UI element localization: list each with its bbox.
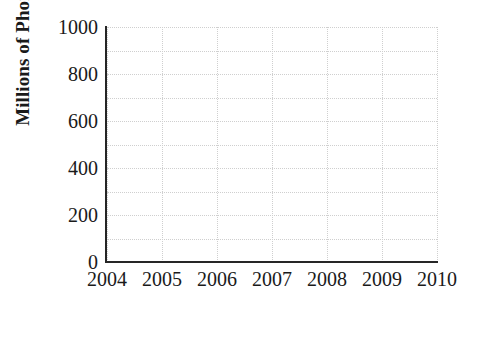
gridline-vertical: [272, 27, 273, 262]
y-axis-tick-label: 200: [7, 205, 107, 225]
x-axis-tick-labels: 2004200520062007200820092010: [107, 267, 437, 297]
y-axis-tick-label: 1000: [7, 17, 107, 37]
plot-area: [107, 27, 437, 262]
x-axis-line: [105, 261, 438, 263]
gridline-vertical: [217, 27, 218, 262]
x-axis-tick-label: 2010: [402, 267, 472, 291]
gridline-vertical: [162, 27, 163, 262]
chart-figure: Millions of Phones 02004006008001000 200…: [0, 0, 485, 343]
gridline-vertical: [382, 27, 383, 262]
y-axis-tick-label: 400: [7, 158, 107, 178]
y-axis-tick-labels: 02004006008001000: [0, 27, 107, 262]
y-axis-tick-label: 800: [7, 64, 107, 84]
y-axis-tick-label: 600: [7, 111, 107, 131]
gridline-vertical: [107, 27, 108, 262]
gridline-vertical: [327, 27, 328, 262]
gridline-vertical: [437, 27, 438, 262]
